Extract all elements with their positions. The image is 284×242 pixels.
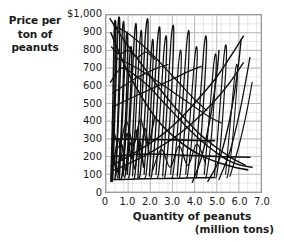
x-tick-label: 7.0 bbox=[254, 196, 270, 208]
x-tick-label: 6.0 bbox=[232, 196, 248, 208]
y-tick-label: 400 bbox=[56, 116, 102, 126]
y-tick-label: $1,000 bbox=[56, 9, 102, 19]
y-tick-label: 900 bbox=[56, 27, 102, 37]
y-tick-label: 800 bbox=[56, 45, 102, 55]
y-tick-label: 200 bbox=[56, 152, 102, 162]
y-tick-label: 300 bbox=[56, 134, 102, 144]
x-axis-tick-labels: 01.02.03.04.05.06.07.0 bbox=[0, 196, 284, 210]
scribble-data-series bbox=[106, 15, 261, 192]
y-tick-label: 100 bbox=[56, 170, 102, 180]
scribble-stroke bbox=[112, 177, 215, 179]
x-tick-label: 2.0 bbox=[142, 196, 158, 208]
peanut-price-quantity-chart: Price per ton of peanuts $1,000900800700… bbox=[0, 0, 284, 242]
plot-area bbox=[105, 14, 262, 193]
x-axis-title: Quantity of peanuts (million tons) bbox=[106, 210, 278, 236]
x-axis-title-line-1: Quantity of peanuts bbox=[106, 210, 278, 223]
x-tick-label: 3.0 bbox=[164, 196, 180, 208]
x-tick-label: 5.0 bbox=[209, 196, 225, 208]
x-tick-label: 0 bbox=[102, 196, 108, 208]
y-tick-label: 700 bbox=[56, 63, 102, 73]
x-tick-label: 4.0 bbox=[187, 196, 203, 208]
x-tick-label: 1.0 bbox=[119, 196, 135, 208]
y-tick-label: 600 bbox=[56, 81, 102, 91]
y-tick-label: 500 bbox=[56, 99, 102, 109]
x-axis-title-line-2: (million tons) bbox=[106, 223, 278, 236]
